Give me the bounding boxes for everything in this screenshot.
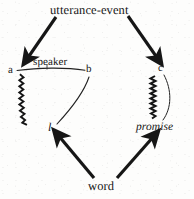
node-label-l: l <box>48 121 51 133</box>
node-label-promise: promise <box>136 122 173 134</box>
squiggle-a-to-l <box>13 74 34 124</box>
arrow-word-to-l <box>58 135 94 178</box>
arrow-utterance-event-to-c <box>128 16 158 59</box>
edge-label-speaker: speaker <box>33 57 67 68</box>
node-label-utterance-event: utterance-event <box>50 4 129 17</box>
arc-c-to-promise <box>163 75 170 120</box>
node-label-word: word <box>88 180 114 193</box>
arrow-word-to-promise <box>117 136 154 178</box>
node-label-b: b <box>86 64 92 75</box>
diagram-canvas: utterance-event speaker a b c l promise … <box>0 0 194 199</box>
node-label-a: a <box>8 65 13 76</box>
node-label-c: c <box>158 64 163 75</box>
curve-b-to-l <box>57 77 89 124</box>
squiggle-c-to-promise <box>151 76 156 119</box>
arrow-utterance-event-to-a <box>27 17 56 59</box>
diagram-graphics <box>0 0 194 199</box>
line-a-to-b <box>17 68 85 70</box>
